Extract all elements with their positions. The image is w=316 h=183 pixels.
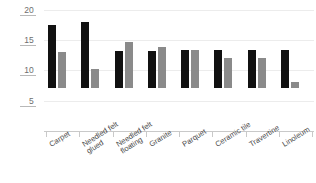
bar-series-2-4[interactable] [158, 47, 166, 88]
bar-series-1-3[interactable] [115, 51, 123, 89]
bar-group [48, 25, 66, 88]
bar-series-2-2[interactable] [91, 69, 99, 88]
bar-group [148, 47, 166, 88]
bar-series-2-5[interactable] [191, 50, 199, 88]
bar-series-2-7[interactable] [258, 58, 266, 88]
bar-group [214, 50, 232, 88]
bar-chart: 20 15 10 5 CarpetNeedled feltgluedNeedle… [0, 0, 316, 183]
bar-series-1-4[interactable] [148, 51, 156, 88]
x-axis-labels: CarpetNeedled feltgluedNeedled feltfloat… [0, 138, 316, 183]
bar-series-1-2[interactable] [81, 22, 89, 88]
bar-group [115, 42, 133, 88]
bar-series-2-8[interactable] [291, 82, 299, 88]
bar-series-1-1[interactable] [48, 25, 56, 88]
bar-group [248, 50, 266, 88]
bar-group [281, 50, 299, 88]
bar-group [81, 22, 99, 88]
bar-series-1-8[interactable] [281, 50, 289, 88]
bar-groups [0, 0, 316, 140]
bar-series-2-1[interactable] [58, 52, 66, 88]
bar-series-1-6[interactable] [214, 50, 222, 88]
bar-series-1-7[interactable] [248, 50, 256, 88]
bar-group [181, 50, 199, 88]
bar-series-2-3[interactable] [125, 42, 133, 88]
bar-series-2-6[interactable] [224, 58, 232, 88]
bar-series-1-5[interactable] [181, 50, 189, 88]
